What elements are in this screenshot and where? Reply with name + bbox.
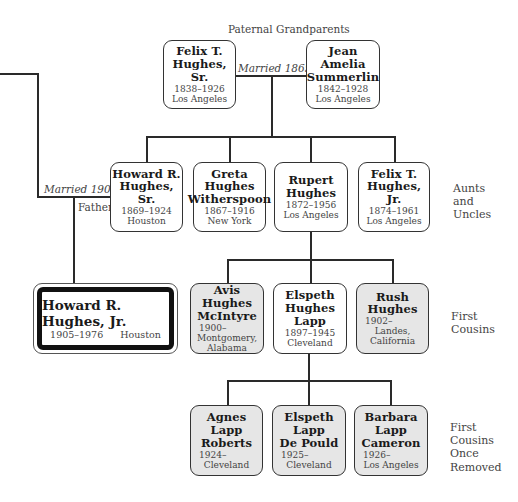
first-cousins-label: First Cousins [451, 310, 495, 336]
person-rupert-hughes: Rupert Hughes 1872–1956 Los Angeles [274, 162, 348, 232]
connector-line [310, 259, 312, 284]
person-dates: 1842–1928 [318, 84, 368, 94]
label-line: Aunts [453, 182, 491, 195]
person-dates: 1926– [355, 450, 427, 460]
person-name: Hughes [367, 303, 417, 316]
person-name: Hughes, Sr. [164, 58, 235, 84]
person-greta-hughes-witherspoon: Greta Hughes Witherspoon 1867–1916 New Y… [193, 162, 266, 232]
person-agnes-lapp-roberts: Agnes Lapp Roberts 1924– Cleveland [190, 405, 263, 476]
connector-line [73, 196, 75, 284]
person-barbara-lapp-cameron: Barbara Lapp Cameron 1926– Los Angeles [354, 405, 428, 476]
person-place: Los Angeles [315, 94, 370, 104]
connector-line [0, 73, 38, 75]
person-dates: 1925– [273, 450, 345, 460]
connector-line [394, 136, 396, 163]
person-felix-hughes-jr: Felix T. Hughes, Jr. 1874–1961 Los Angel… [358, 162, 430, 232]
person-name: Amelia [320, 58, 365, 71]
subject-dates: 1905–1976 [50, 329, 103, 340]
connector-line [310, 136, 312, 163]
person-place: Cleveland [286, 460, 331, 470]
person-felix-hughes-sr: Felix T. Hughes, Sr. 1838–1926 Los Angel… [163, 40, 236, 109]
person-name: McIntyre [197, 310, 257, 323]
person-rush-hughes: Rush Hughes 1902– Landes, California [356, 283, 429, 354]
person-name: Hughes, Jr. [359, 180, 429, 206]
person-dates: 1897–1945 [285, 328, 335, 338]
label-line: First [450, 421, 502, 434]
first-cousins-once-removed-label: First Cousins Once Removed [450, 421, 502, 474]
person-name: De Pould [280, 437, 339, 450]
father-label: Father [78, 201, 113, 214]
person-elspeth-lapp-de-pould: Elspeth Lapp De Pould 1925– Cleveland [272, 405, 346, 476]
person-howard-hughes-jr: Howard R. Hughes, Jr. 1905–1976 Houston [33, 283, 178, 354]
person-dates: 1902– [357, 316, 428, 326]
label-line: and [453, 195, 491, 208]
connector-line [37, 73, 39, 197]
person-place: Landes, [375, 326, 411, 336]
connector-line [229, 136, 231, 163]
connector-line [308, 380, 310, 406]
person-dates: 1838–1926 [174, 84, 224, 94]
person-place: New York [207, 216, 251, 226]
label-line: Cousins [450, 434, 502, 447]
person-name: Roberts [201, 437, 252, 450]
person-name: Lapp [294, 315, 326, 328]
label-line: First [451, 310, 495, 323]
person-name: Witherspoon [188, 193, 271, 206]
connector-line [146, 136, 396, 138]
person-name: Hughes, Sr. [111, 180, 182, 206]
connector-line [146, 136, 148, 163]
marriage-1865-label: Married 1865 [238, 62, 311, 75]
person-place: Cleveland [204, 460, 249, 470]
person-place: Cleveland [287, 338, 332, 348]
person-name: Rupert [288, 174, 333, 187]
person-place: California [370, 336, 415, 346]
connector-line [308, 353, 310, 381]
connector-line [310, 232, 312, 260]
label-line: Once [450, 447, 502, 460]
person-dates: 1867–1916 [204, 206, 254, 216]
person-dates: 1900– [191, 323, 263, 333]
person-dates: 1872–1956 [286, 200, 336, 210]
person-dates: 1924– [191, 450, 262, 460]
subject-place: Houston [120, 329, 161, 340]
subject-details: 1905–1976 Houston [50, 329, 161, 340]
person-place: Los Angeles [366, 216, 421, 226]
person-avis-hughes-mcintyre: Avis Hughes McIntyre 1900– Montgomery, A… [190, 283, 264, 354]
person-name: Avis [214, 284, 240, 297]
label-line: Uncles [453, 208, 491, 221]
person-name: Hughes [202, 297, 252, 310]
person-place: Los Angeles [283, 210, 338, 220]
label-line: Removed [450, 461, 502, 474]
connector-line [227, 380, 229, 406]
person-name: Cameron [362, 437, 421, 450]
person-place: Los Angeles [363, 460, 418, 470]
connector-line [390, 380, 392, 406]
person-dates: 1874–1961 [369, 206, 419, 216]
paternal-grandparents-label: Paternal Grandparents [228, 23, 350, 36]
person-place: Houston [127, 216, 166, 226]
person-name: Lapp [210, 424, 242, 437]
person-elspeth-hughes-lapp: Elspeth Hughes Lapp 1897–1945 Cleveland [273, 283, 347, 354]
label-line: Cousins [451, 323, 495, 336]
person-name: Lapp [375, 424, 407, 437]
person-name: Lapp [293, 424, 325, 437]
person-place: Alabama [207, 343, 247, 353]
person-jean-amelia-summerlin: Jean Amelia Summerlin 1842–1928 Los Ange… [306, 40, 380, 109]
aunts-uncles-label: Aunts and Uncles [453, 182, 491, 222]
person-place: Montgomery, [197, 333, 257, 343]
person-name: Hughes [285, 302, 335, 315]
subject-name: Howard R. Hughes, Jr. [42, 297, 169, 329]
marriage-1904-label: Married 1904 [44, 183, 117, 196]
subject-frame: Howard R. Hughes, Jr. 1905–1976 Houston [37, 287, 174, 350]
person-name: Hughes [286, 187, 336, 200]
connector-line [392, 259, 394, 284]
connector-line [271, 75, 273, 137]
person-place: Los Angeles [172, 94, 227, 104]
person-name: Summerlin [307, 71, 379, 84]
person-dates: 1869–1924 [121, 206, 171, 216]
connector-line [227, 259, 229, 284]
person-howard-hughes-sr: Howard R. Hughes, Sr. 1869–1924 Houston [110, 162, 183, 232]
